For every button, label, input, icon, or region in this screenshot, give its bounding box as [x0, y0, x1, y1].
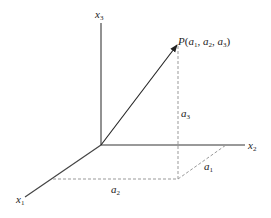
point-label: P(a1, a2, a3): [177, 35, 230, 49]
a3-label: a3: [181, 107, 191, 121]
x1-label: x1: [15, 193, 25, 207]
a1-dashed-line: [178, 145, 226, 179]
vector-diagram: x3 x2 x1 P(a1, a2, a3) a3 a1 a2: [0, 0, 271, 218]
x1-axis: [25, 145, 101, 197]
x2-label: x2: [247, 139, 257, 153]
a1-label: a1: [204, 160, 214, 174]
a2-label: a2: [111, 183, 121, 197]
position-vector-arrow: [101, 45, 177, 145]
x3-label: x3: [94, 8, 104, 22]
